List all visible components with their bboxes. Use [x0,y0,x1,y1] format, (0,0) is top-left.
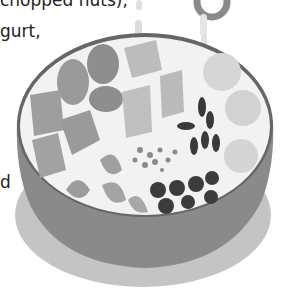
pineapple-icon [160,70,184,118]
banana-slice-icon [224,139,258,173]
mango-cube-icon [30,90,64,136]
banana-slice-icon [225,90,261,126]
plum-icon [89,86,123,112]
yogurt-bowl-illustration [0,0,283,288]
plum-icon [87,44,119,84]
pineapple-icon [122,85,152,138]
banana-slice-icon [203,53,241,91]
plum-icon [57,59,89,105]
